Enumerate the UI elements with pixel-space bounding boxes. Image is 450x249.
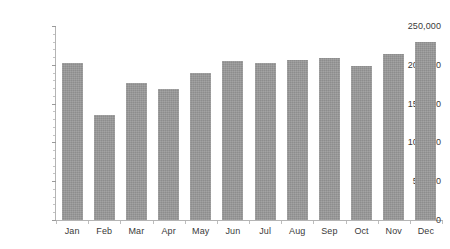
y-axis-minor-tick: [53, 212, 55, 213]
bar[interactable]: [126, 83, 147, 220]
y-axis-minor-tick: [53, 88, 55, 89]
x-axis-tick-label: Mar: [129, 226, 145, 236]
y-axis-minor-tick: [53, 96, 55, 97]
bar[interactable]: [287, 60, 308, 220]
y-axis-minor-tick: [53, 150, 55, 151]
bar[interactable]: [255, 63, 276, 220]
y-axis-minor-tick: [53, 158, 55, 159]
bar[interactable]: [319, 58, 340, 220]
x-axis-tick-label: Jan: [65, 226, 80, 236]
y-axis-minor-tick: [53, 173, 55, 174]
x-axis-tick: [346, 221, 347, 224]
y-axis-minor-tick: [53, 57, 55, 58]
x-axis-tick-label: Dec: [418, 226, 434, 236]
x-axis-tick-label: Apr: [161, 226, 175, 236]
y-axis-minor-tick: [53, 135, 55, 136]
y-axis-minor-tick: [53, 42, 55, 43]
bar-chart: 050,000100,000150,000200,000250,000 JanF…: [0, 0, 450, 249]
y-axis-minor-tick: [53, 197, 55, 198]
y-axis-minor-tick: [53, 119, 55, 120]
bar[interactable]: [351, 66, 372, 220]
bar[interactable]: [94, 115, 115, 220]
y-axis-minor-tick: [53, 166, 55, 167]
x-axis-tick: [56, 221, 57, 224]
x-axis-tick-label: Nov: [386, 226, 402, 236]
y-axis-minor-tick: [53, 189, 55, 190]
y-axis-minor-tick: [53, 80, 55, 81]
y-axis-minor-tick: [53, 127, 55, 128]
x-axis-tick-label: Jul: [259, 226, 271, 236]
bars-container: [56, 26, 442, 220]
x-axis-tick-label: May: [192, 226, 209, 236]
x-axis-tick: [313, 221, 314, 224]
x-axis-tick: [217, 221, 218, 224]
x-axis-tick-label: Sep: [321, 226, 337, 236]
x-axis-tick-label: Oct: [354, 226, 368, 236]
y-axis-minor-tick: [53, 49, 55, 50]
x-axis-tick: [249, 221, 250, 224]
x-axis-tick: [281, 221, 282, 224]
x-axis-tick-label: Jun: [226, 226, 241, 236]
bar[interactable]: [383, 54, 404, 220]
x-axis-tick-label: Aug: [289, 226, 305, 236]
bar[interactable]: [415, 42, 436, 220]
bar[interactable]: [62, 63, 83, 220]
x-axis-tick: [120, 221, 121, 224]
x-axis-tick: [153, 221, 154, 224]
bar[interactable]: [190, 73, 211, 220]
x-axis-tick: [442, 221, 443, 224]
y-axis-minor-tick: [53, 73, 55, 74]
x-axis-tick: [88, 221, 89, 224]
x-axis-tick: [410, 221, 411, 224]
x-axis-tick: [378, 221, 379, 224]
x-axis-tick: [185, 221, 186, 224]
bar[interactable]: [222, 61, 243, 220]
y-axis-minor-tick: [53, 204, 55, 205]
bar[interactable]: [158, 89, 179, 220]
y-axis-minor-tick: [53, 111, 55, 112]
x-axis-tick-label: Feb: [96, 226, 112, 236]
y-axis-minor-tick: [53, 34, 55, 35]
